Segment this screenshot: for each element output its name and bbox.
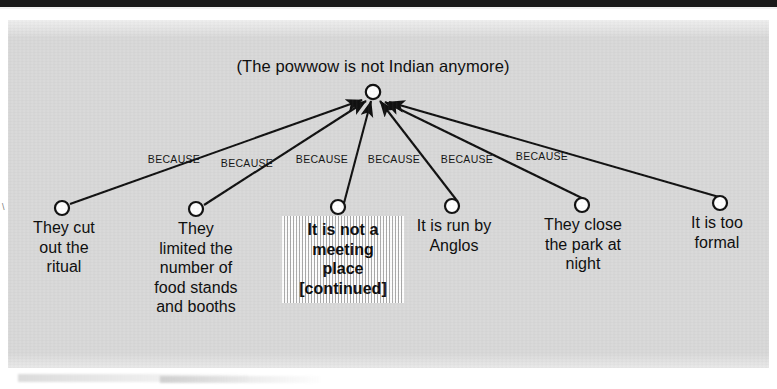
edge-leaf-2: [344, 101, 371, 203]
circle-node-leaf-4[interactable]: [575, 198, 589, 212]
leaf-nodes: [55, 196, 727, 216]
leaf-label-2-highlighted: It is not a meeting place [continued]: [282, 216, 404, 303]
leaf-label-0: They cut out the ritual: [16, 218, 112, 277]
figure-page: (The powwow is not Indian anymore) BECAU…: [0, 0, 777, 389]
circle-node-leaf-0[interactable]: [55, 201, 69, 215]
page-bottom-smudge-secondary: [160, 376, 320, 383]
root-node-label: (The powwow is not Indian anymore): [158, 56, 588, 76]
link-label-because-5: BECAUSE: [506, 150, 578, 163]
circle-node-leaf-3[interactable]: [445, 199, 459, 213]
link-label-because-4: BECAUSE: [431, 153, 503, 166]
edge-leaf-0: [70, 100, 362, 204]
leaf-label-1: They limited the number of food stands a…: [130, 219, 262, 317]
leaf-label-4: They close the park at night: [520, 215, 646, 274]
margin-scan-artifact: \: [2, 203, 9, 212]
leaf-label-3: It is run by Anglos: [398, 216, 510, 255]
diagram-panel: (The powwow is not Indian anymore) BECAU…: [8, 20, 769, 368]
link-label-because-0: BECAUSE: [138, 153, 210, 166]
scan-top-edge: [0, 7, 777, 9]
circle-node-leaf-1[interactable]: [189, 202, 203, 216]
edge-leaf-3: [380, 101, 458, 202]
link-label-because-1: BECAUSE: [211, 157, 283, 170]
link-label-because-2: BECAUSE: [286, 153, 358, 166]
link-label-because-3: BECAUSE: [358, 153, 430, 166]
circle-node-leaf-2[interactable]: [331, 200, 345, 214]
circle-node-root[interactable]: [366, 85, 380, 99]
circle-node-leaf-5[interactable]: [713, 196, 727, 210]
leaf-label-5: It is too formal: [664, 213, 769, 252]
scan-top-black-bar: [0, 0, 777, 7]
